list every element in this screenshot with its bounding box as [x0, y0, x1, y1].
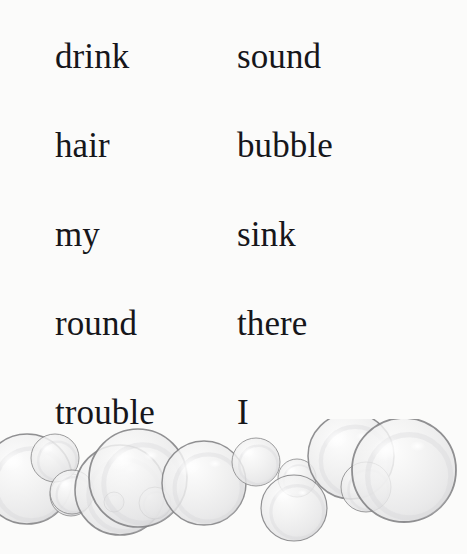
sight-word-grid: drink sound hair bubble my sink round th… [0, 0, 467, 430]
bubbles-svg [0, 419, 467, 554]
word-item: bubble [237, 116, 333, 176]
bubble [232, 438, 280, 486]
bubble [261, 475, 327, 541]
word-item: sink [237, 205, 296, 265]
word-item: sound [237, 27, 321, 87]
word-item: my [55, 205, 100, 265]
word-row: drink sound [0, 27, 467, 87]
word-item: there [237, 294, 307, 354]
word-row: my sink [0, 205, 467, 265]
soap-bubbles-illustration [0, 419, 467, 554]
bubble-layer [0, 419, 456, 541]
bubble [352, 419, 456, 522]
word-row: hair bubble [0, 116, 467, 176]
word-row: round there [0, 294, 467, 354]
word-item: hair [55, 116, 110, 176]
worksheet-page: drink sound hair bubble my sink round th… [0, 0, 467, 554]
word-item: drink [55, 27, 129, 87]
word-item: round [55, 294, 137, 354]
